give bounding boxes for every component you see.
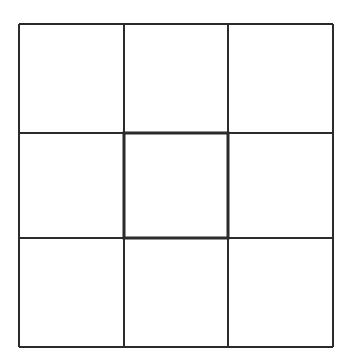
- grid-cell-r2-c0: [19, 238, 124, 347]
- grid-cell-r2-c1: [124, 238, 228, 347]
- three-by-three-grid: [0, 0, 349, 356]
- grid-cell-r0-c2: [228, 24, 333, 133]
- grid-cell-r1-c0: [19, 133, 124, 238]
- grid-cell-r1-c2: [228, 133, 333, 238]
- grid-cell-r1-c1: [124, 133, 228, 238]
- grid-cell-r0-c0: [19, 24, 124, 133]
- grid-diagram: [0, 0, 349, 356]
- grid-cell-r2-c2: [228, 238, 333, 347]
- grid-cell-r0-c1: [124, 24, 228, 133]
